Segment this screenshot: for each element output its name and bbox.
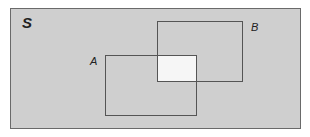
set-b-rectangle xyxy=(157,21,243,82)
label-b: B xyxy=(251,21,258,33)
label-a: A xyxy=(90,55,97,67)
label-s: S xyxy=(22,14,32,31)
